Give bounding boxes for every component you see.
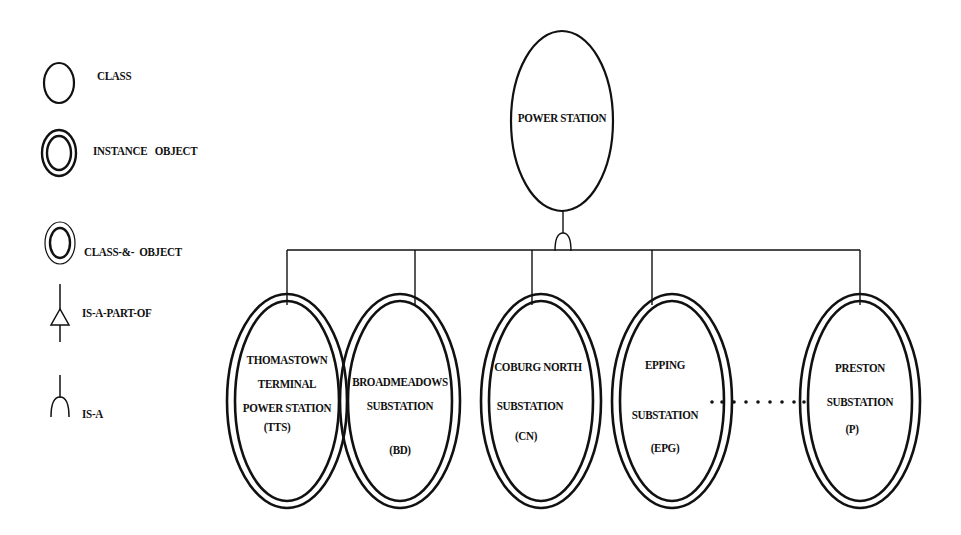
epg-line-2: SUBSTATION — [616, 390, 714, 440]
p-line-1: PRESTON — [811, 357, 909, 379]
tts-line-1: THOMASTOWN — [238, 348, 336, 372]
child-label-p: PRESTON SUBSTATION (P) — [800, 357, 920, 434]
child-label-epg: EPPING SUBSTATION (EPG) — [605, 340, 725, 456]
legend-label-is-a-part-of: IS-A-PART-OF — [82, 305, 152, 321]
legend-label-class: CLASS — [97, 68, 131, 84]
tts-line-4: (TTS) — [236, 420, 318, 434]
legend-label-instance-object: INSTANCE OBJECT — [93, 143, 197, 159]
diagram-canvas — [0, 0, 961, 535]
legend-class-icon — [44, 63, 74, 103]
cn-line-2: SUBSTATION — [487, 382, 572, 429]
cn-line-3: (CN) — [487, 429, 566, 443]
epg-line-1: EPPING — [616, 340, 714, 390]
child-label-cn: COBURG NORTH SUBSTATION (CN) — [478, 352, 598, 443]
is-a-connector — [287, 211, 860, 305]
tts-line-3: POWER STATION — [238, 396, 336, 420]
bd-line-4: (BD) — [351, 438, 449, 462]
legend-is-a-icon — [51, 375, 69, 417]
cn-line-1: COBURG NORTH — [489, 352, 587, 382]
tts-line-2: TERMINAL — [238, 372, 336, 396]
child-label-bd: BROADMEADOWS SUBSTATION (BD) — [340, 370, 460, 462]
legend-is-a-part-of-icon — [51, 284, 69, 342]
legend-class-and-object-icon — [45, 222, 75, 264]
p-line-2: SUBSTATION — [811, 379, 909, 424]
root-label: POWER STATION — [502, 110, 622, 126]
p-line-3: (P) — [809, 424, 894, 434]
bd-line-2: SUBSTATION — [351, 394, 449, 418]
legend-instance-object-icon — [42, 130, 76, 176]
legend-label-class-and-object: CLASS-&- OBJECT — [84, 244, 182, 260]
child-label-tts: THOMASTOWN TERMINAL POWER STATION (TTS) — [227, 348, 347, 434]
root-label-text: POWER STATION — [513, 110, 611, 126]
epg-line-3: (EPG) — [616, 440, 714, 456]
legend-label-is-a: IS-A — [82, 406, 103, 422]
bd-line-1: BROADMEADOWS — [351, 370, 449, 394]
